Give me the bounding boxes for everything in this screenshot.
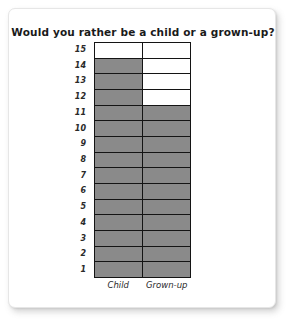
plot-area	[94, 42, 191, 278]
chart-title: Would you rather be a child or a grown-u…	[9, 26, 276, 38]
bar-cell-child-13	[95, 74, 143, 89]
y-axis-tick: 4	[56, 215, 90, 231]
bar-cell-grown-up-14	[143, 59, 190, 74]
bar-grid-row	[95, 121, 190, 137]
bar-grid-row	[95, 74, 190, 90]
bar-cell-grown-up-9	[143, 137, 190, 152]
bar-cell-grown-up-8	[143, 153, 190, 168]
bar-cell-child-1	[95, 262, 143, 277]
bar-grid-row	[95, 215, 190, 231]
bar-cell-grown-up-7	[143, 168, 190, 183]
y-axis-tick: 10	[56, 121, 90, 137]
bar-cell-grown-up-4	[143, 215, 190, 230]
bar-cell-child-6	[95, 184, 143, 199]
bar-grid-row	[95, 168, 190, 184]
x-axis-label-grown-up: Grown-up	[143, 281, 192, 290]
x-axis-label-child: Child	[94, 281, 143, 290]
chart-card: Would you rather be a child or a grown-u…	[8, 8, 276, 308]
bar-grid-row	[95, 43, 190, 59]
y-axis-tick: 6	[56, 184, 90, 200]
bar-cell-child-2	[95, 247, 143, 262]
bar-cell-child-14	[95, 59, 143, 74]
bar-grid-row	[95, 231, 190, 247]
y-axis-labels: 15 14 13 12 11 10 9 8 7 6 5 4 3 2 1	[56, 42, 90, 278]
bar-cell-grown-up-15	[143, 43, 190, 58]
bar-cell-child-9	[95, 137, 143, 152]
bar-cell-grown-up-13	[143, 74, 190, 89]
bar-cell-child-8	[95, 153, 143, 168]
bar-cell-grown-up-6	[143, 184, 190, 199]
y-axis-tick: 7	[56, 168, 90, 184]
bar-grid-row	[95, 59, 190, 75]
bar-cell-grown-up-10	[143, 121, 190, 136]
bar-cell-grown-up-11	[143, 106, 190, 121]
y-axis-tick: 5	[56, 199, 90, 215]
bar-grid-row	[95, 153, 190, 169]
bar-grid-row	[95, 137, 190, 153]
bar-grid-row	[95, 200, 190, 216]
y-axis-tick: 11	[56, 105, 90, 121]
bar-cell-child-10	[95, 121, 143, 136]
bar-cell-grown-up-12	[143, 90, 190, 105]
bar-cell-child-3	[95, 231, 143, 246]
bar-cell-child-5	[95, 200, 143, 215]
bar-grid-row	[95, 106, 190, 122]
bar-cell-child-12	[95, 90, 143, 105]
bar-grid-row	[95, 184, 190, 200]
y-axis-tick: 9	[56, 136, 90, 152]
bar-grid	[94, 42, 191, 278]
bar-cell-grown-up-1	[143, 262, 190, 277]
bar-cell-child-7	[95, 168, 143, 183]
bar-cell-child-4	[95, 215, 143, 230]
y-axis-tick: 1	[56, 262, 90, 278]
y-axis-tick: 13	[56, 73, 90, 89]
bar-grid-row	[95, 262, 190, 277]
bar-grid-row	[95, 247, 190, 263]
bar-cell-grown-up-5	[143, 200, 190, 215]
y-axis-tick: 3	[56, 231, 90, 247]
bar-cell-grown-up-2	[143, 247, 190, 262]
y-axis-tick: 15	[56, 42, 90, 58]
x-axis-labels: Child Grown-up	[94, 281, 191, 290]
y-axis-tick: 12	[56, 89, 90, 105]
bar-cell-child-11	[95, 106, 143, 121]
y-axis-tick: 8	[56, 152, 90, 168]
bar-cell-grown-up-3	[143, 231, 190, 246]
bar-cell-child-15	[95, 43, 143, 58]
y-axis-tick: 14	[56, 58, 90, 74]
bar-grid-row	[95, 90, 190, 106]
y-axis-tick: 2	[56, 247, 90, 263]
